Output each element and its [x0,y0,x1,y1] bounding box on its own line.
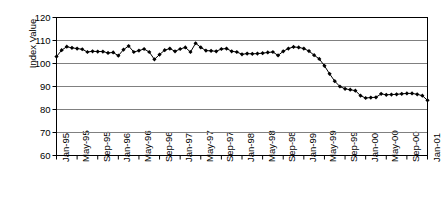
data-point-marker [219,47,223,51]
data-point-marker [389,92,393,96]
data-point-marker [142,47,146,51]
data-point-marker [255,52,259,56]
data-point-marker [415,92,419,96]
chart-container: Index Value 60708090100110120 Jan-95May-… [0,0,444,206]
chart-plot [0,0,444,206]
data-point-marker [240,52,244,56]
data-point-marker [291,45,295,49]
x-axis-tick-marks [57,156,428,160]
data-point-marker [173,49,177,53]
y-axis-tick-marks [53,18,57,156]
data-point-marker [364,96,368,100]
data-point-marker [101,49,105,53]
gridlines [57,18,428,133]
data-point-marker [209,49,213,53]
data-point-marker [410,91,414,95]
data-point-marker [85,50,89,54]
data-point-marker [90,49,94,53]
data-point-marker [230,49,234,53]
data-point-marker [266,50,270,54]
data-point-marker [168,46,172,50]
data-point-marker [405,91,409,95]
data-point-marker [70,46,74,50]
data-point-marker [75,46,79,50]
data-point-marker [96,49,100,53]
data-point-marker [261,51,265,55]
data-point-marker [137,49,141,53]
data-point-marker [348,88,352,92]
data-point-marker [297,45,301,49]
data-point-marker [250,52,254,56]
data-point-marker [384,93,388,97]
data-point-marker [178,47,182,51]
data-point-marker [106,51,110,55]
data-point-marker [343,87,347,91]
data-point-marker [302,46,306,50]
data-point-marker [80,47,84,51]
data-point-marker [369,95,373,99]
data-point-marker [224,46,228,50]
data-point-marker [214,49,218,53]
series-markers [54,41,429,102]
data-point-marker [400,92,404,96]
data-point-marker [286,46,290,50]
data-point-marker [245,52,249,56]
data-point-marker [394,92,398,96]
data-point-marker [235,50,239,54]
